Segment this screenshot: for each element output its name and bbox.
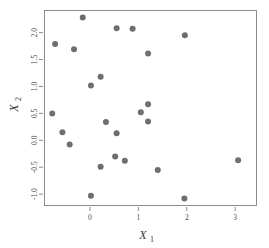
x-tick-label: 0 <box>88 213 92 222</box>
data-point <box>138 109 144 115</box>
data-point <box>181 195 187 201</box>
data-point <box>103 119 109 125</box>
data-point <box>122 158 128 164</box>
x-tick-label: 1 <box>137 213 141 222</box>
data-point <box>145 51 151 57</box>
x-axis-title-subscript: 1 <box>150 235 154 244</box>
data-point <box>88 82 94 88</box>
data-point <box>114 25 120 31</box>
data-point <box>98 74 104 80</box>
data-point <box>114 130 120 136</box>
data-point <box>145 101 151 107</box>
y-tick-label: 0.0 <box>30 135 39 145</box>
data-point <box>182 32 188 38</box>
y-axis: -1.0-0.50.00.51.01.52.0 <box>30 28 43 200</box>
data-point <box>112 153 118 159</box>
data-point <box>145 118 151 124</box>
y-tick-label: 2.0 <box>30 28 39 38</box>
y-tick-label: 0.5 <box>30 108 39 118</box>
y-axis-title-base: X <box>7 104 21 113</box>
data-point <box>49 110 55 116</box>
data-point <box>235 157 241 163</box>
y-tick-label: -1.0 <box>30 188 39 200</box>
scatter-plot-figure: 0123 -1.0-0.50.00.51.01.52.0 X 1 X 2 <box>0 0 269 248</box>
x-tick-label: 3 <box>233 213 237 222</box>
plot-frame <box>45 11 257 206</box>
data-point <box>98 164 104 170</box>
y-tick-label: 1.5 <box>30 55 39 65</box>
plot-canvas: 0123 -1.0-0.50.00.51.01.52.0 X 1 X 2 <box>0 0 269 248</box>
data-point <box>52 41 58 47</box>
data-point <box>71 46 77 52</box>
x-axis-title: X 1 <box>138 228 154 244</box>
data-point <box>80 15 86 21</box>
data-point <box>88 193 94 199</box>
x-axis: 0123 <box>88 207 237 222</box>
y-axis-title-subscript: 2 <box>14 97 23 101</box>
y-axis-title: X 2 <box>7 97 23 113</box>
x-tick-label: 2 <box>185 213 189 222</box>
data-point <box>155 167 161 173</box>
data-point <box>130 26 136 32</box>
y-tick-label: 1.0 <box>30 82 39 92</box>
y-tick-label: -0.5 <box>30 161 39 173</box>
data-point <box>67 142 73 148</box>
data-point <box>59 129 65 135</box>
x-axis-title-base: X <box>138 228 147 242</box>
